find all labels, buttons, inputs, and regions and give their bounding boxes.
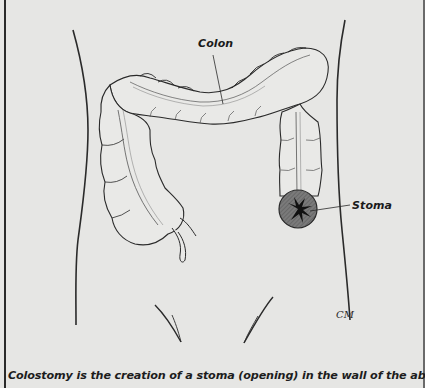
colostomy-illustration: CM	[0, 0, 425, 388]
figure-panel: CM Colon Stoma Colostomy is the creation…	[0, 0, 425, 388]
appendix	[172, 228, 186, 262]
figure-caption: Colostomy is the creation of a stoma (op…	[8, 369, 425, 382]
artist-signature: CM	[336, 309, 355, 320]
groin-line-left	[155, 305, 181, 342]
torso-left-outline	[73, 30, 88, 325]
colon-label: Colon	[198, 37, 233, 50]
torso-right-outline	[337, 20, 350, 320]
stoma-label: Stoma	[352, 199, 392, 212]
groin-line-right	[244, 297, 273, 343]
